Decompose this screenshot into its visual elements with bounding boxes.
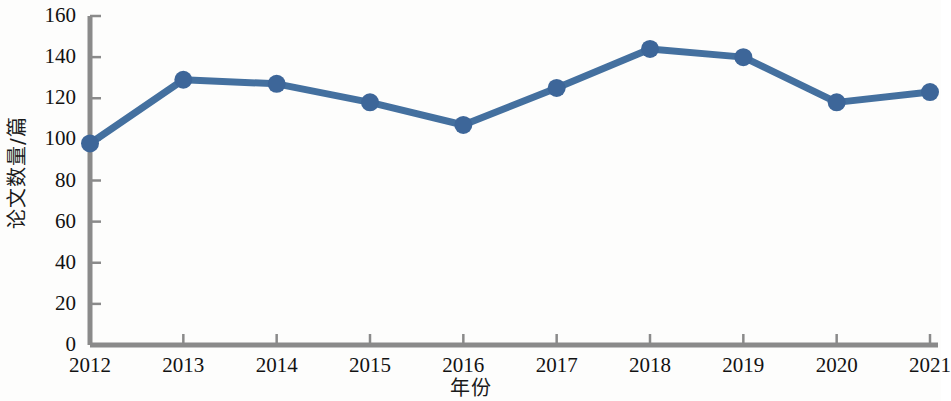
data-point-marker xyxy=(454,116,472,134)
series-line xyxy=(90,49,930,144)
axis-lines xyxy=(90,16,938,345)
data-markers xyxy=(81,40,939,153)
data-point-marker xyxy=(548,79,566,97)
data-line xyxy=(90,49,930,144)
data-point-marker xyxy=(734,48,752,66)
axis-ticks xyxy=(90,16,930,345)
data-point-marker xyxy=(921,83,939,101)
data-point-marker xyxy=(268,75,286,93)
data-point-marker xyxy=(81,134,99,152)
data-point-marker xyxy=(828,93,846,111)
data-point-marker xyxy=(361,93,379,111)
data-point-marker xyxy=(641,40,659,58)
data-point-marker xyxy=(174,71,192,89)
